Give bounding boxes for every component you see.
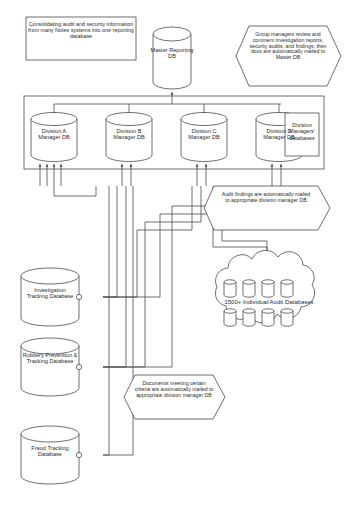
diagram-svg: [0, 0, 347, 507]
division-b-db-shape: [106, 113, 152, 162]
hex-group-managers-shape: [236, 26, 341, 86]
diagram-canvas: Consolidating audit and security informa…: [0, 0, 347, 507]
fraud-tracking-db-shape: [21, 426, 79, 484]
route-fraud: [103, 186, 133, 455]
route-robbery: [103, 186, 126, 367]
robbery-out-port: [76, 364, 81, 369]
division-a-db-shape: [31, 113, 77, 162]
investigation-out-port: [76, 294, 81, 299]
division-managers-label-box: [285, 113, 319, 156]
master-reporting-db-shape: [153, 27, 191, 89]
hex-documents-criteria-shape: [124, 375, 225, 419]
fraud-out-port: [76, 452, 81, 457]
robbery-tracking-db-shape: [21, 338, 79, 396]
note-consolidating-box: [26, 17, 136, 60]
division-c-db-shape: [181, 113, 227, 162]
route-investigation: [103, 186, 117, 297]
investigation-tracking-db-shape: [21, 268, 79, 326]
hex-audit-findings-shape: [204, 186, 330, 230]
